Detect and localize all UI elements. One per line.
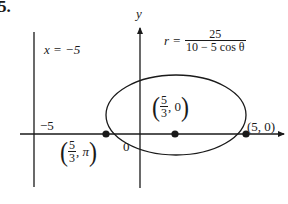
directrix-label: x = −5 [44,42,80,58]
focus-point [171,130,178,137]
problem-number: 5. [0,0,11,17]
origin-label: 0 [123,139,130,155]
right-vertex-label: (5, 0) [247,119,275,135]
focus-label: ( 5 3 , 0 ) [152,94,189,119]
y-axis-label: y [136,6,142,22]
equation-fraction: 25 10 − 5 cos θ [185,28,246,53]
left-vertex-label: ( 5 3 , π ) [60,139,97,164]
x-tick-label: −5 [40,118,54,134]
focus-label-num: 5 [160,94,168,106]
left-vertex-label-rest: , π [76,144,89,160]
focus-label-rest: , 0 [168,99,181,115]
left-vertex-point [102,130,109,137]
left-vertex-label-den: 3 [68,151,76,164]
left-vertex-label-num: 5 [68,139,76,151]
equation-denominator: 10 − 5 cos θ [185,40,246,53]
focus-label-den: 3 [160,106,168,119]
directrix-label-text: x = −5 [44,42,80,57]
equation: r = 25 10 − 5 cos θ [164,28,246,53]
equation-numerator: 25 [208,28,222,40]
equation-lhs: r = [164,33,181,49]
